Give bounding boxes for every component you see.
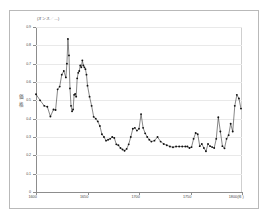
unit-label: (オンス／…) — [37, 17, 59, 21]
x-tick-label: 1750 — [183, 195, 191, 199]
y-tick-mark — [33, 100, 36, 101]
y-tick-label: 0.6 — [7, 80, 31, 84]
y-tick-label: 0.7 — [7, 62, 31, 66]
y-tick-mark — [33, 174, 36, 175]
y-tick-label: 0.9 — [7, 25, 31, 29]
y-tick-label: 0.5 — [7, 98, 31, 102]
y-tick-label: 0.3 — [7, 135, 31, 139]
y-tick-mark — [33, 82, 36, 83]
x-tick-label: 1700 — [131, 195, 139, 199]
gridline-horizontal — [36, 174, 242, 175]
x-tick-label: 1650 — [80, 195, 88, 199]
y-tick-label: 0.1 — [7, 172, 31, 176]
gridline-horizontal — [36, 45, 242, 46]
gridline-horizontal — [36, 100, 242, 101]
x-tick-label: 1800(年) — [229, 195, 244, 199]
y-tick-label: 0.8 — [7, 43, 31, 47]
y-tick-mark — [33, 64, 36, 65]
y-tick-label: 0 — [7, 190, 31, 194]
y-tick-label: 0.2 — [7, 153, 31, 157]
y-tick-mark — [33, 45, 36, 46]
y-axis-line — [36, 27, 37, 193]
y-tick-mark — [33, 155, 36, 156]
y-tick-label: 0.4 — [7, 117, 31, 121]
y-tick-mark — [33, 27, 36, 28]
plot-area — [36, 27, 242, 192]
gridline-horizontal — [36, 155, 242, 156]
gridline-horizontal — [36, 119, 242, 120]
gridline-horizontal — [36, 64, 242, 65]
gridline-horizontal — [36, 82, 242, 83]
y-tick-mark — [33, 137, 36, 138]
chart-figure: (オンス／…) 価格 00.10.20.30.40.50.60.70.80.9 … — [0, 0, 270, 219]
x-tick-label: 1600 — [28, 195, 36, 199]
gridline-horizontal — [36, 27, 242, 28]
y-tick-mark — [33, 119, 36, 120]
gridline-horizontal — [36, 137, 242, 138]
